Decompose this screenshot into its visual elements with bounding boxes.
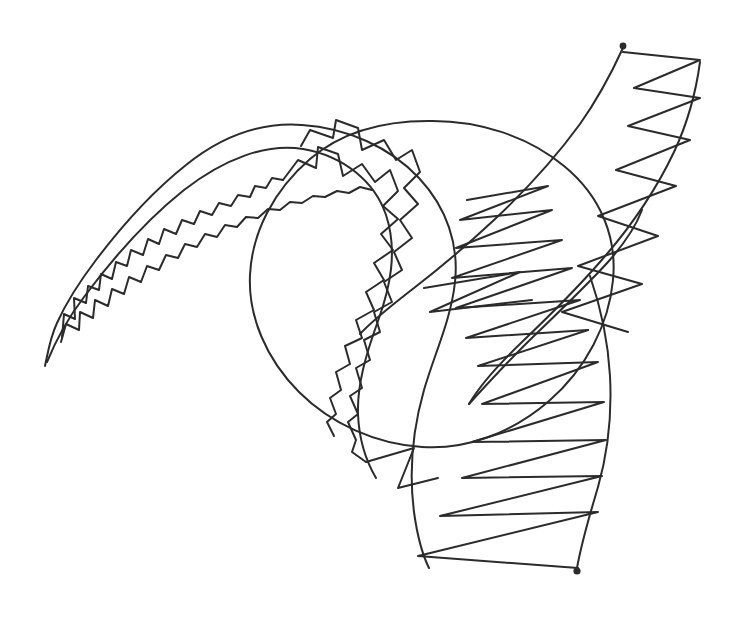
start-dot-top-right <box>620 43 627 50</box>
line-drawing-svg <box>0 0 733 622</box>
drawing-canvas <box>0 0 733 622</box>
paper-background <box>0 0 733 622</box>
end-dot-bottom <box>573 567 580 574</box>
